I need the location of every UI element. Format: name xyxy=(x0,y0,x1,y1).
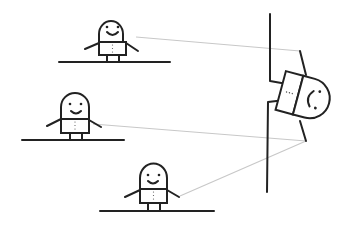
arm-right xyxy=(89,120,101,127)
connector-line-middle xyxy=(93,124,306,141)
figure-bottom xyxy=(100,163,214,211)
arm-left xyxy=(47,119,61,126)
figure-top xyxy=(59,21,170,62)
arm-right xyxy=(167,190,179,197)
connector-line-bottom xyxy=(180,141,306,196)
connector-line-top xyxy=(136,37,300,51)
head xyxy=(140,163,167,189)
eye-icon xyxy=(80,103,83,106)
head xyxy=(61,93,89,119)
arm-right xyxy=(126,43,138,51)
eye-icon xyxy=(117,26,120,29)
arm-left xyxy=(125,190,140,197)
diagram-canvas xyxy=(0,0,357,225)
figure-middle xyxy=(22,93,124,140)
eye-icon xyxy=(69,103,72,106)
eye-icon xyxy=(106,26,109,29)
wall-figure xyxy=(267,14,334,192)
eye-icon xyxy=(158,174,161,177)
head xyxy=(99,21,123,42)
eye-icon xyxy=(147,174,150,177)
wall-lower xyxy=(267,100,285,192)
arm-left xyxy=(85,43,99,49)
